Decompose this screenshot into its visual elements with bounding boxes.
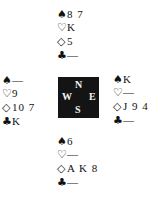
north-diamonds: 5 [67, 35, 74, 47]
north-hearts-row: ♡K [57, 21, 76, 33]
south-diamonds-row: ◇A K 8 [57, 162, 98, 174]
west-spades-row: ♠— [2, 74, 24, 86]
west-clubs: K [12, 115, 21, 127]
east-diamonds: J 9 4 [123, 100, 149, 112]
diamond-icon: ◇ [2, 102, 12, 114]
diamond-icon: ◇ [57, 36, 67, 48]
compass-south: S [75, 105, 81, 115]
compass-north: N [75, 80, 82, 90]
south-diamonds: A K 8 [67, 162, 98, 174]
club-icon: ♣ [113, 115, 123, 127]
compass-west: W [62, 92, 72, 102]
east-spades: K [123, 73, 132, 85]
heart-icon: ♡ [2, 88, 12, 100]
north-diamonds-row: ◇5 [57, 35, 74, 47]
east-hearts-row: ♡— [113, 86, 135, 98]
west-diamonds: 10 7 [12, 101, 35, 113]
east-spades-row: ♠K [113, 73, 132, 85]
north-spades-row: ♠8 7 [57, 8, 84, 20]
diamond-icon: ◇ [57, 163, 67, 175]
north-hearts: K [67, 21, 76, 33]
south-clubs: — [67, 176, 79, 188]
west-spades: — [12, 74, 24, 86]
north-clubs: — [67, 49, 79, 61]
compass-east: E [89, 92, 96, 102]
east-hearts: — [123, 86, 135, 98]
diamond-icon: ◇ [113, 101, 123, 113]
spade-icon: ♠ [2, 75, 12, 87]
heart-icon: ♡ [113, 87, 123, 99]
north-spades: 8 7 [67, 8, 84, 20]
spade-icon: ♠ [57, 9, 67, 21]
south-hearts-row: ♡— [57, 148, 79, 160]
south-spades: 6 [67, 135, 74, 147]
west-hearts-row: ♡9 [2, 87, 19, 99]
heart-icon: ♡ [57, 22, 67, 34]
east-clubs: — [123, 114, 135, 126]
north-clubs-row: ♣— [57, 49, 79, 61]
west-hearts: 9 [12, 87, 19, 99]
west-diamonds-row: ◇10 7 [2, 101, 35, 113]
south-hearts: — [67, 148, 79, 160]
east-clubs-row: ♣— [113, 114, 135, 126]
east-diamonds-row: ◇J 9 4 [113, 100, 149, 112]
club-icon: ♣ [57, 177, 67, 189]
south-clubs-row: ♣— [57, 176, 79, 188]
spade-icon: ♠ [113, 74, 123, 86]
club-icon: ♣ [2, 116, 12, 128]
heart-icon: ♡ [57, 149, 67, 161]
south-spades-row: ♠6 [57, 135, 74, 147]
spade-icon: ♠ [57, 136, 67, 148]
compass-box: N W E S [58, 77, 99, 118]
club-icon: ♣ [57, 50, 67, 62]
west-clubs-row: ♣K [2, 115, 21, 127]
